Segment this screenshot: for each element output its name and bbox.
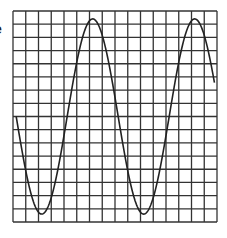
sine-wave-grid-plot (0, 0, 227, 238)
grid (13, 11, 217, 222)
